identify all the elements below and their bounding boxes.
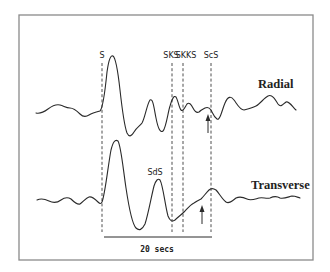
seismogram-figure: S SKS SKKS ScS Radial Transverse SdS 20 … — [0, 0, 330, 272]
transverse-arrow — [200, 205, 205, 224]
transverse-arrow-head-icon — [200, 205, 205, 212]
radial-arrow-head-icon — [206, 114, 211, 121]
phase-label-scs: ScS — [204, 51, 219, 60]
scale-bar-label: 20 secs — [140, 245, 174, 254]
phase-label-skks: SKKS — [176, 51, 197, 60]
sds-label: SdS — [147, 168, 162, 177]
phase-label-s: S — [99, 51, 104, 60]
radial-trace — [36, 56, 296, 136]
transverse-label: Transverse — [251, 178, 310, 192]
radial-label: Radial — [258, 77, 294, 91]
radial-arrow — [206, 114, 211, 133]
